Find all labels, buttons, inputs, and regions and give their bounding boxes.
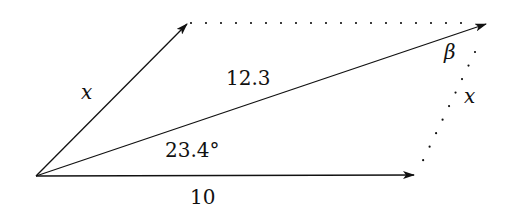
dotted-right-side (417, 52, 475, 173)
diagram-canvas (0, 0, 514, 220)
label-x-left: x (81, 82, 92, 102)
vector-diagonal-arrow (36, 24, 486, 176)
label-angle: 23.4° (165, 140, 220, 160)
label-base: 10 (190, 187, 215, 207)
label-beta: β (444, 42, 456, 62)
vector-base-arrow (36, 175, 414, 176)
parallelogram-diagram: x 12.3 23.4° 10 β x (0, 0, 514, 220)
label-x-right: x (464, 86, 475, 106)
label-diagonal: 12.3 (226, 68, 271, 88)
